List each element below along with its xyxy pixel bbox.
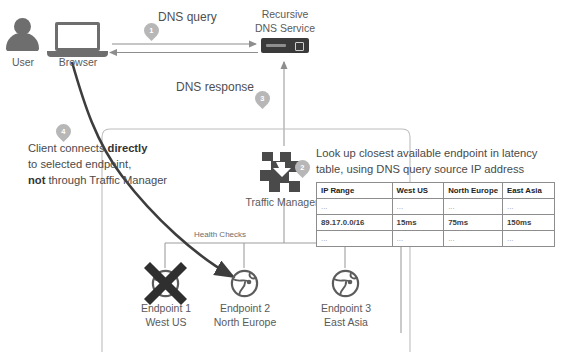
client-connect-note-line3-post: through Traffic Manager	[45, 174, 167, 186]
endpoint-2-globe-icon	[229, 268, 260, 299]
recursive-dns-label: Recursive DNS Service	[245, 8, 325, 35]
browser-label: Browser	[50, 56, 106, 70]
table-row: 89.17.0.0/16 15ms 75ms 150ms	[317, 215, 555, 231]
endpoint-2-label-line2: North Europe	[203, 316, 287, 330]
latency-table-header-row: IP Range West US North Europe East Asia	[317, 183, 555, 199]
latency-cell: ...	[502, 199, 554, 215]
client-connect-note: Client connects directly to selected end…	[28, 140, 167, 189]
recursive-dns-label-line1: Recursive	[245, 8, 325, 22]
step-badge-3-number: 3	[260, 95, 264, 103]
diagram-canvas: 1 2 3 4 User Browser Recursive DNS Servi…	[0, 0, 561, 354]
step-badge-3: 3	[252, 88, 273, 109]
health-checks-label: Health Checks	[194, 230, 246, 240]
latency-cell: ...	[444, 199, 503, 215]
latency-table-header-north-europe: North Europe	[444, 183, 503, 199]
table-row: ... ... ... ...	[317, 199, 555, 215]
endpoint-1-unavailable-cross-icon	[144, 262, 187, 305]
step-badge-4: 4	[53, 121, 74, 142]
latency-cell: ...	[444, 231, 503, 247]
client-connect-note-line1-pre: Client connects	[28, 142, 108, 154]
recursive-dns-label-line2: DNS Service	[245, 22, 325, 36]
latency-cell-west-us: 15ms	[392, 215, 444, 231]
dns-query-label: DNS query	[158, 10, 217, 25]
endpoint-1-label: Endpoint 1 West US	[128, 302, 204, 329]
latency-cell: ...	[502, 231, 554, 247]
lookup-note: Look up closest available endpoint in la…	[316, 146, 558, 178]
latency-cell: ...	[392, 231, 444, 247]
latency-cell: ...	[317, 199, 393, 215]
endpoint-3-globe-icon	[330, 268, 361, 299]
dns-response-label: DNS response	[176, 80, 254, 95]
latency-cell-east-asia: 150ms	[502, 215, 554, 231]
endpoint-3-label-line1: Endpoint 3	[306, 302, 386, 316]
endpoint-2-label-line1: Endpoint 2	[203, 302, 287, 316]
latency-cell: ...	[392, 199, 444, 215]
client-connect-note-line3: not through Traffic Manager	[28, 172, 167, 188]
user-label: User	[4, 56, 42, 70]
latency-cell-north-europe: 75ms	[444, 215, 503, 231]
client-connect-note-line2: to selected endpoint,	[28, 156, 167, 172]
latency-table-header-ip-range: IP Range	[317, 183, 393, 199]
endpoint-3-label: Endpoint 3 East Asia	[306, 302, 386, 329]
step-badge-1-number: 1	[149, 27, 153, 35]
endpoint-1-label-line1: Endpoint 1	[128, 302, 204, 316]
server-icon	[261, 38, 309, 53]
latency-cell-ip-range: 89.17.0.0/16	[317, 215, 393, 231]
latency-table-header-east-asia: East Asia	[502, 183, 554, 199]
latency-cell: ...	[317, 231, 393, 247]
endpoint-1-label-line2: West US	[128, 316, 204, 330]
latency-table: IP Range West US North Europe East Asia …	[316, 182, 555, 247]
endpoint-3-label-line2: East Asia	[306, 316, 386, 330]
step-badge-2-number: 2	[300, 164, 304, 172]
latency-table-header-west-us: West US	[392, 183, 444, 199]
traffic-manager-label: Traffic Manager	[237, 196, 327, 210]
step-badge-4-number: 4	[61, 128, 65, 136]
endpoint-2-label: Endpoint 2 North Europe	[203, 302, 287, 329]
client-connect-note-not: not	[28, 174, 45, 186]
table-row: ... ... ... ...	[317, 231, 555, 247]
client-connect-note-line1: Client connects directly	[28, 140, 167, 156]
client-connect-note-directly: directly	[108, 142, 148, 154]
